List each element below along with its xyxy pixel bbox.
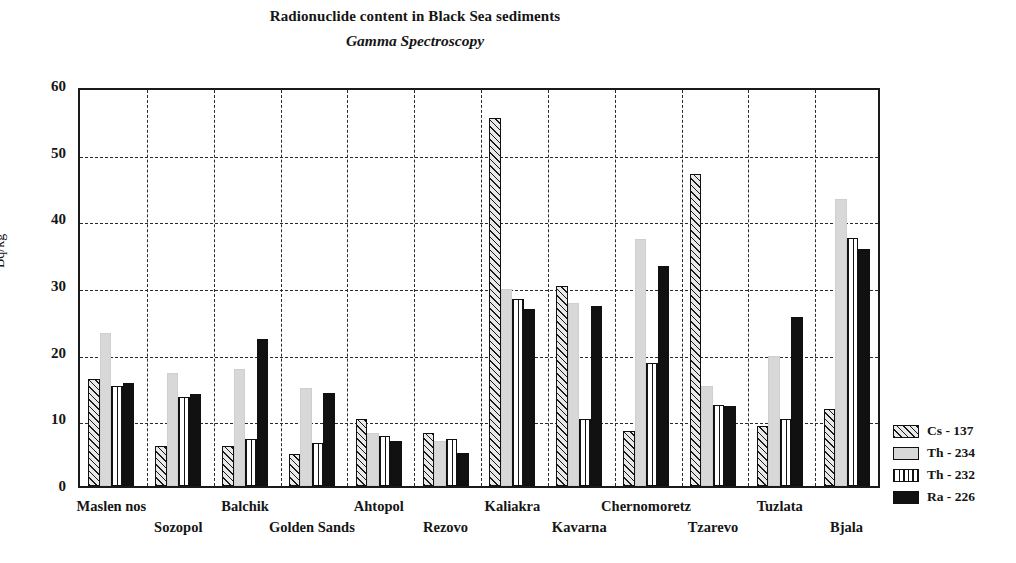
x-axis-tick-label: Rezovo	[423, 519, 468, 536]
bar	[489, 118, 501, 486]
y-axis-tick-label: 0	[20, 478, 66, 495]
bar-group	[80, 90, 147, 486]
bar	[222, 446, 234, 486]
bar	[457, 453, 469, 486]
legend-item[interactable]: Ra - 226	[893, 486, 975, 508]
x-axis-tick-label: Bjala	[830, 519, 863, 536]
x-axis-tick-label: Tzarevo	[688, 519, 738, 536]
bar	[556, 286, 568, 486]
x-axis-tick-label: Balchik	[221, 498, 269, 515]
legend-item[interactable]: Cs - 137	[893, 420, 975, 442]
legend-label: Th - 234	[927, 445, 975, 461]
legend-swatch-icon	[893, 469, 919, 482]
bar	[190, 394, 202, 486]
bar	[446, 439, 458, 486]
chart-legend: Cs - 137Th - 234Th - 232Ra - 226	[893, 420, 975, 508]
bar-group	[615, 90, 682, 486]
bar	[501, 289, 513, 486]
legend-swatch-icon	[893, 447, 919, 460]
bar	[835, 199, 847, 486]
bar	[591, 306, 603, 486]
bar	[658, 266, 670, 486]
legend-item[interactable]: Th - 232	[893, 464, 975, 486]
x-axis-tick-label: Maslen nos	[77, 498, 147, 515]
bar-group	[682, 90, 749, 486]
chart-subtitle: Gamma Spectroscopy	[0, 32, 830, 50]
y-axis-tick-label: 30	[20, 278, 66, 295]
plot-area	[78, 88, 880, 488]
bar	[791, 317, 803, 486]
y-axis-tick-label: 60	[20, 78, 66, 95]
x-axis-tick-label: Sozopol	[154, 519, 202, 536]
bar	[423, 433, 435, 486]
legend-label: Ra - 226	[927, 489, 975, 505]
bar	[568, 303, 580, 486]
bar	[367, 433, 379, 486]
x-axis-tick-label: Golden Sands	[269, 519, 355, 536]
bar	[434, 441, 446, 486]
bar-group	[214, 90, 281, 486]
bar	[234, 369, 246, 486]
bar	[768, 356, 780, 486]
bar-group	[548, 90, 615, 486]
bar	[245, 439, 257, 486]
legend-swatch-icon	[893, 425, 919, 438]
bar-group	[147, 90, 214, 486]
bar	[757, 426, 769, 486]
bar	[123, 383, 135, 486]
bar	[579, 419, 591, 486]
bar-group	[281, 90, 348, 486]
x-axis-tick-label: Kaliakra	[485, 498, 541, 515]
bar-group	[748, 90, 815, 486]
y-axis-tick-label: 40	[20, 211, 66, 228]
bar	[257, 339, 269, 486]
y-axis-tick-label: 10	[20, 411, 66, 428]
bar	[690, 174, 702, 486]
chart-title: Radionuclide content in Black Sea sedime…	[0, 8, 830, 25]
bar	[111, 386, 123, 486]
bar-group	[815, 90, 882, 486]
y-axis-label: Bq/kg	[0, 234, 8, 268]
chart-container: Radionuclide content in Black Sea sedime…	[0, 0, 1016, 563]
bar	[379, 436, 391, 486]
bar	[323, 393, 335, 486]
x-axis-tick-label: Tuzlata	[757, 498, 803, 515]
legend-label: Cs - 137	[927, 423, 974, 439]
bar	[847, 238, 859, 486]
bar	[100, 333, 112, 486]
legend-label: Th - 232	[927, 467, 975, 483]
bar	[713, 405, 725, 486]
bar	[623, 431, 635, 486]
bar	[88, 379, 100, 486]
x-axis-tick-label: Chernomoretz	[601, 498, 691, 515]
x-axis-tick-label: Kavarna	[552, 519, 607, 536]
legend-item[interactable]: Th - 234	[893, 442, 975, 464]
bar-group	[481, 90, 548, 486]
bar	[356, 419, 368, 486]
legend-swatch-icon	[893, 491, 919, 504]
bar	[858, 249, 870, 486]
bar-group	[414, 90, 481, 486]
bar	[701, 386, 713, 486]
bar	[155, 446, 167, 486]
bar	[646, 363, 658, 486]
y-axis-tick-label: 50	[20, 145, 66, 162]
bar	[300, 388, 312, 486]
bar	[312, 443, 324, 486]
bar	[524, 309, 536, 486]
bar	[512, 299, 524, 486]
bar	[390, 441, 402, 486]
y-axis-tick-label: 20	[20, 345, 66, 362]
bar	[178, 397, 190, 486]
bar-group	[347, 90, 414, 486]
bar	[167, 373, 179, 486]
x-axis-tick-label: Ahtopol	[354, 498, 404, 515]
bar	[724, 406, 736, 486]
bar	[824, 409, 836, 486]
bar	[289, 454, 301, 486]
bar	[780, 419, 792, 486]
bar	[635, 239, 647, 486]
